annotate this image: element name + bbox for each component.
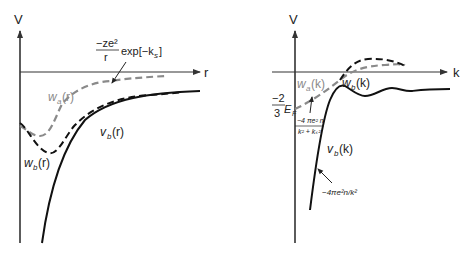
svg-text:(k): (k) xyxy=(311,77,325,91)
svg-text:−2: −2 xyxy=(272,92,285,104)
svg-text:−ze²: −ze² xyxy=(96,37,118,49)
svg-text:−4 πe² n: −4 πe² n xyxy=(297,117,324,124)
svg-text:3: 3 xyxy=(274,107,280,119)
curve-vb-r xyxy=(42,91,200,243)
asymptote-pointer-arrow xyxy=(318,169,332,183)
svg-text:(r): (r) xyxy=(112,125,124,139)
screened-coulomb-formula: −ze² r exp[−k s ] xyxy=(96,37,162,63)
svg-text:r: r xyxy=(104,51,108,63)
curve-wb-r xyxy=(20,92,183,153)
fermi-energy-label: −2 3 E F xyxy=(272,92,297,119)
label-vb-k: v b (k) xyxy=(327,142,353,158)
right-panel-reciprocal-space: V k −2 3 E F −4 πe² n k² + kₛ² xyxy=(272,12,460,243)
svg-text:v: v xyxy=(100,125,107,139)
left-r-axis-label: r xyxy=(204,65,209,80)
curve-wa-r xyxy=(20,76,165,136)
left-panel-real-space: V r −ze² r exp[−k s ] w a (r) xyxy=(14,12,209,243)
pseudopotential-figure: V r −ze² r exp[−k s ] w a (r) xyxy=(0,0,469,256)
asymptote-formula: −4πe²n/k² xyxy=(322,188,357,197)
svg-text:(r): (r) xyxy=(62,90,74,104)
left-v-axis-label: V xyxy=(14,12,23,27)
svg-text:]: ] xyxy=(159,45,162,57)
label-vb-r: v b (r) xyxy=(100,125,124,141)
svg-text:exp[−k: exp[−k xyxy=(121,45,154,57)
right-v-axis-label: V xyxy=(289,12,298,27)
label-wa-r: w a (r) xyxy=(48,90,74,106)
right-k-axis-label: k xyxy=(453,65,460,80)
label-wb-k: w b (k) xyxy=(342,76,370,92)
svg-text:(k): (k) xyxy=(356,76,370,90)
label-wb-r: w b (r) xyxy=(24,156,50,172)
svg-text:(k): (k) xyxy=(339,142,353,156)
small-formula-pointer-arrow xyxy=(310,97,312,113)
svg-text:k² + kₛ²: k² + kₛ² xyxy=(298,128,321,135)
svg-text:F: F xyxy=(292,110,297,117)
svg-text:(r): (r) xyxy=(38,156,50,170)
label-wa-k: w a (k) xyxy=(297,77,325,93)
svg-text:s: s xyxy=(154,51,158,60)
svg-text:v: v xyxy=(327,142,334,156)
screened-fourier-formula: −4 πe² n k² + kₛ² xyxy=(295,117,324,135)
svg-text:E: E xyxy=(284,103,292,115)
